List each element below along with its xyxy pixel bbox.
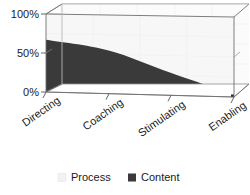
y-tick-label-100: 100% xyxy=(11,8,39,20)
y-tick-label-50: 50% xyxy=(17,47,39,59)
legend-swatch-content xyxy=(128,174,136,182)
x-label-coaching: Coaching xyxy=(80,96,125,132)
area-chart-3d: 100% 50% 0% Directing Coaching Stimulati… xyxy=(0,0,250,195)
legend-swatch-process xyxy=(58,174,66,182)
y-tick-label-0: 0% xyxy=(23,86,39,98)
chart-legend: Process Content xyxy=(58,171,180,183)
x-label-stimulating: Stimulating xyxy=(136,98,187,139)
x-category-labels: Directing Coaching Stimulating Enabling xyxy=(20,94,248,139)
y-axis-ticks xyxy=(41,14,46,92)
legend-label-content: Content xyxy=(141,171,180,183)
chart-container: 100% 50% 0% Directing Coaching Stimulati… xyxy=(0,0,250,195)
x-label-directing: Directing xyxy=(20,94,62,129)
legend-label-process: Process xyxy=(71,171,111,183)
x-label-enabling: Enabling xyxy=(206,99,248,133)
